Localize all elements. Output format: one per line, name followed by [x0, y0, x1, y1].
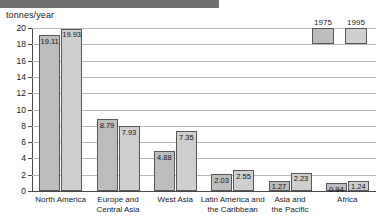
legend-label: 1995: [345, 18, 367, 27]
bar-value-label: 4.88: [157, 153, 172, 162]
y-axis-tick: [28, 77, 32, 78]
y-axis-tick-label: 4: [0, 153, 26, 163]
y-axis-tick-label: 2: [0, 170, 26, 180]
chart-page: tonnes/year 0246810121416182019.1119.938…: [0, 0, 382, 221]
bar-value-label: 8.79: [100, 121, 115, 130]
grid-line: [32, 44, 376, 45]
y-axis-tick: [28, 142, 32, 143]
x-axis-category-label: Europe and Central Asia: [96, 195, 139, 214]
grid-line: [32, 110, 376, 111]
bar-value-label: 19.11: [41, 37, 59, 46]
y-axis-tick-label: 6: [0, 137, 26, 147]
header-accent-bar: [0, 0, 219, 8]
grid-line: [32, 126, 376, 127]
grid-line: [32, 61, 376, 62]
y-axis-tick-label: 14: [0, 72, 26, 82]
bar-value-label: 2.03: [214, 176, 229, 185]
plot-area: 0246810121416182019.1119.938.797.934.887…: [32, 28, 376, 191]
x-axis-category-label: Latin America and the Caribbean: [201, 195, 265, 214]
grid-line: [32, 93, 376, 94]
y-axis-tick-label: 16: [0, 56, 26, 66]
bar-value-label: 0.94: [329, 185, 344, 194]
legend-item[interactable]: 1975: [312, 18, 334, 44]
bar-value-label: 7.35: [179, 133, 194, 142]
legend-item[interactable]: 1995: [345, 18, 367, 44]
bar[interactable]: [97, 119, 118, 191]
bar-value-label: 1.24: [351, 182, 366, 191]
x-axis-category-label: North America: [35, 195, 86, 205]
grid-line: [32, 142, 376, 143]
y-axis-tick-label: 10: [0, 105, 26, 115]
bar[interactable]: [39, 35, 60, 191]
y-axis-unit-label: tonnes/year: [6, 10, 54, 20]
y-axis-tick-label: 18: [0, 39, 26, 49]
y-axis-tick: [28, 175, 32, 176]
bar-value-label: 7.93: [122, 128, 137, 137]
legend-swatch: [345, 28, 367, 44]
bar[interactable]: [61, 29, 82, 191]
axis-baseline: [32, 191, 376, 192]
y-axis-tick-label: 8: [0, 121, 26, 131]
bar-value-label: 2.55: [236, 172, 251, 181]
bar-value-label: 1.27: [272, 182, 287, 191]
legend-label: 1975: [312, 18, 334, 27]
bar-value-label: 19.93: [62, 30, 81, 39]
bar-value-label: 2.23: [294, 174, 309, 183]
grid-line: [32, 158, 376, 159]
y-axis-tick-label: 12: [0, 88, 26, 98]
y-axis-tick: [28, 93, 32, 94]
grid-line: [32, 175, 376, 176]
x-axis-category-label: Africa: [337, 195, 357, 205]
y-axis-tick: [28, 158, 32, 159]
y-axis-tick: [28, 44, 32, 45]
y-axis-tick: [28, 110, 32, 111]
y-axis-tick: [28, 191, 32, 192]
x-axis-category-label: Asia and the Pacific: [272, 195, 309, 214]
y-axis-tick-label: 0: [0, 186, 26, 196]
legend-swatch: [312, 28, 334, 44]
y-axis-tick: [28, 28, 32, 29]
y-axis-tick: [28, 61, 32, 62]
grid-line: [32, 77, 376, 78]
y-axis-tick-label: 20: [0, 23, 26, 33]
y-axis-tick: [28, 126, 32, 127]
x-axis-category-label: West Asia: [158, 195, 193, 205]
